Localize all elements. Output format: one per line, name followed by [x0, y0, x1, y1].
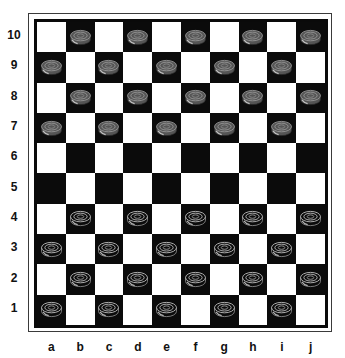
square-c10[interactable]	[95, 22, 124, 52]
square-g2[interactable]	[210, 264, 239, 294]
square-g1[interactable]	[210, 295, 239, 325]
square-f9[interactable]	[181, 52, 210, 82]
square-d5[interactable]	[123, 173, 152, 203]
square-h7[interactable]	[239, 113, 268, 143]
grey-piece-icon[interactable]	[40, 58, 63, 77]
square-a8[interactable]	[37, 83, 66, 113]
square-d3[interactable]	[123, 234, 152, 264]
square-j2[interactable]	[296, 264, 325, 294]
square-d10[interactable]	[123, 22, 152, 52]
square-f8[interactable]	[181, 83, 210, 113]
square-f3[interactable]	[181, 234, 210, 264]
square-c6[interactable]	[95, 143, 124, 173]
square-e6[interactable]	[152, 143, 181, 173]
square-a6[interactable]	[37, 143, 66, 173]
black-piece-icon[interactable]	[270, 240, 293, 259]
square-i3[interactable]	[267, 234, 296, 264]
black-piece-icon[interactable]	[299, 209, 322, 228]
square-e4[interactable]	[152, 204, 181, 234]
square-f2[interactable]	[181, 264, 210, 294]
grey-piece-icon[interactable]	[155, 119, 178, 138]
black-piece-icon[interactable]	[126, 270, 149, 289]
square-c3[interactable]	[95, 234, 124, 264]
black-piece-icon[interactable]	[97, 300, 120, 319]
black-piece-icon[interactable]	[299, 270, 322, 289]
grey-piece-icon[interactable]	[213, 119, 236, 138]
black-piece-icon[interactable]	[126, 209, 149, 228]
square-i10[interactable]	[267, 22, 296, 52]
square-h2[interactable]	[239, 264, 268, 294]
black-piece-icon[interactable]	[241, 270, 264, 289]
square-h3[interactable]	[239, 234, 268, 264]
square-f10[interactable]	[181, 22, 210, 52]
grey-piece-icon[interactable]	[155, 58, 178, 77]
square-f1[interactable]	[181, 295, 210, 325]
square-f4[interactable]	[181, 204, 210, 234]
square-j4[interactable]	[296, 204, 325, 234]
square-a4[interactable]	[37, 204, 66, 234]
square-c5[interactable]	[95, 173, 124, 203]
square-h5[interactable]	[239, 173, 268, 203]
black-piece-icon[interactable]	[40, 300, 63, 319]
square-c9[interactable]	[95, 52, 124, 82]
square-a7[interactable]	[37, 113, 66, 143]
square-b3[interactable]	[66, 234, 95, 264]
square-b6[interactable]	[66, 143, 95, 173]
square-a5[interactable]	[37, 173, 66, 203]
square-a1[interactable]	[37, 295, 66, 325]
grey-piece-icon[interactable]	[126, 28, 149, 47]
square-a9[interactable]	[37, 52, 66, 82]
square-h9[interactable]	[239, 52, 268, 82]
black-piece-icon[interactable]	[184, 209, 207, 228]
grey-piece-icon[interactable]	[184, 88, 207, 107]
square-i4[interactable]	[267, 204, 296, 234]
square-i5[interactable]	[267, 173, 296, 203]
square-d7[interactable]	[123, 113, 152, 143]
grey-piece-icon[interactable]	[126, 88, 149, 107]
black-piece-icon[interactable]	[40, 240, 63, 259]
square-g5[interactable]	[210, 173, 239, 203]
grey-piece-icon[interactable]	[97, 119, 120, 138]
grey-piece-icon[interactable]	[270, 119, 293, 138]
square-f6[interactable]	[181, 143, 210, 173]
grey-piece-icon[interactable]	[97, 58, 120, 77]
square-i9[interactable]	[267, 52, 296, 82]
square-d8[interactable]	[123, 83, 152, 113]
black-piece-icon[interactable]	[155, 300, 178, 319]
square-j9[interactable]	[296, 52, 325, 82]
square-j5[interactable]	[296, 173, 325, 203]
square-h6[interactable]	[239, 143, 268, 173]
square-j1[interactable]	[296, 295, 325, 325]
square-a2[interactable]	[37, 264, 66, 294]
square-j10[interactable]	[296, 22, 325, 52]
grey-piece-icon[interactable]	[241, 88, 264, 107]
square-h4[interactable]	[239, 204, 268, 234]
square-j8[interactable]	[296, 83, 325, 113]
black-piece-icon[interactable]	[97, 240, 120, 259]
square-c1[interactable]	[95, 295, 124, 325]
square-e8[interactable]	[152, 83, 181, 113]
square-d2[interactable]	[123, 264, 152, 294]
square-g6[interactable]	[210, 143, 239, 173]
square-g8[interactable]	[210, 83, 239, 113]
grey-piece-icon[interactable]	[69, 88, 92, 107]
square-b8[interactable]	[66, 83, 95, 113]
square-e9[interactable]	[152, 52, 181, 82]
square-e7[interactable]	[152, 113, 181, 143]
square-c7[interactable]	[95, 113, 124, 143]
square-e3[interactable]	[152, 234, 181, 264]
square-b5[interactable]	[66, 173, 95, 203]
black-piece-icon[interactable]	[213, 240, 236, 259]
square-b1[interactable]	[66, 295, 95, 325]
square-c2[interactable]	[95, 264, 124, 294]
square-c8[interactable]	[95, 83, 124, 113]
square-e2[interactable]	[152, 264, 181, 294]
square-b2[interactable]	[66, 264, 95, 294]
black-piece-icon[interactable]	[270, 300, 293, 319]
square-g4[interactable]	[210, 204, 239, 234]
black-piece-icon[interactable]	[155, 240, 178, 259]
square-e1[interactable]	[152, 295, 181, 325]
square-b7[interactable]	[66, 113, 95, 143]
square-d4[interactable]	[123, 204, 152, 234]
square-h8[interactable]	[239, 83, 268, 113]
